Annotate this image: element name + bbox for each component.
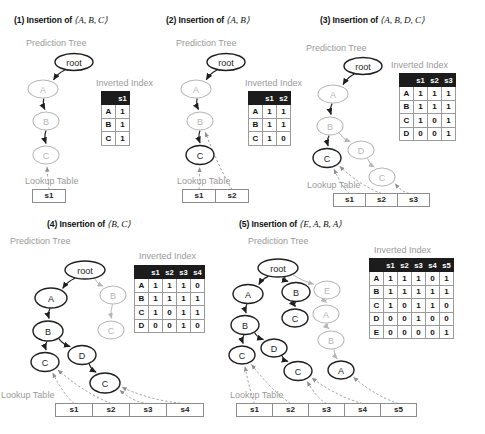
ii-cell: 1: [414, 87, 428, 100]
tree-node-a[interactable]: A: [233, 285, 263, 304]
tree-node-root[interactable]: root: [344, 58, 382, 75]
tree-node-a[interactable]: A: [318, 85, 348, 103]
panel-3-inverted-index-table: s1s2s3A111B111C101D001: [399, 73, 456, 141]
tree-node-c[interactable]: C: [186, 146, 214, 165]
lookup-cell[interactable]: s1: [183, 190, 216, 203]
lookup-cell[interactable]: s3: [398, 194, 430, 207]
node-label: root: [355, 62, 371, 72]
tree-node-a[interactable]: A: [35, 288, 67, 308]
ii-cell: 0: [412, 325, 426, 338]
ii-row-header: A: [249, 105, 263, 118]
ii-row: C10110: [370, 299, 454, 312]
ii-cell: 0: [428, 127, 442, 140]
lookup-cell[interactable]: s1: [56, 404, 93, 417]
tree-node-d[interactable]: D: [68, 346, 96, 365]
ii-cell: 0: [163, 319, 177, 332]
panel-2-lookup-table: s1s2: [182, 189, 249, 203]
ii-cell: 0: [384, 312, 398, 325]
tree-edge: [54, 70, 65, 80]
ii-cell: 0: [398, 312, 412, 325]
tree-node-c[interactable]: C: [98, 321, 124, 339]
tree-node-a[interactable]: A: [328, 361, 354, 379]
tree-node-b[interactable]: B: [231, 316, 259, 335]
tree-node-c[interactable]: C: [369, 168, 395, 186]
ii-cell: 0: [191, 319, 205, 332]
tree-node-c[interactable]: C: [229, 346, 255, 364]
tree-node-a[interactable]: A: [28, 80, 58, 98]
lookup-cell[interactable]: s4: [167, 404, 204, 417]
ii-row-header: C: [102, 132, 116, 145]
tree-node-d[interactable]: D: [261, 339, 287, 357]
tree-node-c[interactable]: C: [31, 353, 59, 372]
lookup-cell[interactable]: s2: [273, 404, 309, 417]
tree-node-c[interactable]: C: [313, 149, 341, 168]
lookup-pointer: [47, 167, 49, 190]
tree-node-b[interactable]: B: [318, 331, 344, 349]
ii-column-header: s4: [426, 259, 440, 272]
ii-cell: 1: [414, 100, 428, 113]
lookup-cell[interactable]: s2: [93, 404, 130, 417]
tree-edge: [59, 339, 70, 347]
ii-cell: 1: [263, 105, 277, 118]
tree-node-e[interactable]: E: [314, 281, 340, 299]
ii-cell: 0: [191, 279, 205, 292]
ii-corner-cell: [400, 74, 414, 87]
tree-edge: [294, 302, 295, 307]
ii-column-header: s1: [149, 266, 163, 279]
ii-row-header: B: [370, 285, 384, 298]
tree-edge: [242, 335, 244, 344]
ii-cell: 1: [428, 87, 442, 100]
tree-node-b[interactable]: B: [100, 286, 126, 304]
tree-node-root[interactable]: root: [258, 259, 298, 277]
tree-node-root[interactable]: root: [207, 54, 245, 71]
ii-row-header: C: [249, 132, 263, 145]
tree-node-root[interactable]: root: [55, 54, 93, 71]
tree-node-a[interactable]: A: [181, 80, 211, 98]
ii-row: D00100: [370, 312, 454, 325]
tree-node-a[interactable]: A: [313, 305, 339, 323]
lookup-pointer: [53, 373, 74, 403]
lookup-cell[interactable]: s1: [237, 404, 273, 417]
tree-node-b[interactable]: B: [282, 283, 310, 302]
lookup-cell[interactable]: s1: [334, 194, 366, 207]
tree-node-d[interactable]: D: [348, 141, 374, 159]
ii-cell: 1: [116, 118, 130, 131]
lookup-pointer: [307, 382, 326, 404]
ii-cell: 1: [412, 299, 426, 312]
ii-cell: 1: [428, 100, 442, 113]
node-label: C: [108, 326, 115, 336]
ii-row: E00001: [370, 325, 454, 338]
tree-node-c[interactable]: C: [90, 373, 120, 393]
ii-cell: 1: [442, 100, 456, 113]
tree-node-c[interactable]: C: [284, 362, 312, 381]
tree-edge: [367, 158, 374, 167]
tree-node-b[interactable]: B: [33, 112, 59, 130]
lookup-cell[interactable]: s4: [345, 404, 381, 417]
lookup-cell[interactable]: s2: [216, 190, 249, 203]
lookup-cell[interactable]: s3: [309, 404, 345, 417]
ii-column-header: s1: [414, 74, 428, 87]
tree-node-c[interactable]: C: [33, 146, 59, 164]
lookup-cell[interactable]: s3: [130, 404, 167, 417]
tree-node-b[interactable]: B: [33, 321, 63, 341]
ii-corner-cell: [249, 92, 263, 105]
tree-node-c[interactable]: C: [282, 309, 308, 327]
node-label: C: [42, 358, 49, 368]
lookup-cell[interactable]: s2: [366, 194, 398, 207]
ii-cell: 1: [440, 325, 454, 338]
ii-column-header: s2: [163, 266, 177, 279]
panel-5-inverted-index-table: s1s2s3s4s5A11101B11111C10110D00100E00001: [369, 258, 454, 339]
prediction-tree-graphics: rootABCrootABCrootABCDCrootABBCCDCrootAB…: [0, 0, 485, 434]
node-label: C: [292, 314, 299, 324]
tree-node-root[interactable]: root: [65, 261, 105, 279]
ii-cell: 1: [149, 279, 163, 292]
ii-cell: 1: [191, 306, 205, 319]
lookup-cell[interactable]: s5: [381, 404, 417, 417]
lookup-cell[interactable]: s1: [33, 190, 66, 203]
ii-cell: 1: [177, 279, 191, 292]
tree-node-b[interactable]: B: [187, 112, 213, 130]
ii-corner-cell: [370, 259, 384, 272]
tree-edge: [285, 277, 288, 281]
tree-node-b[interactable]: B: [317, 117, 343, 135]
tree-nodes: rootABCrootABCrootABCDCrootABBCCDCrootAB…: [28, 54, 395, 394]
